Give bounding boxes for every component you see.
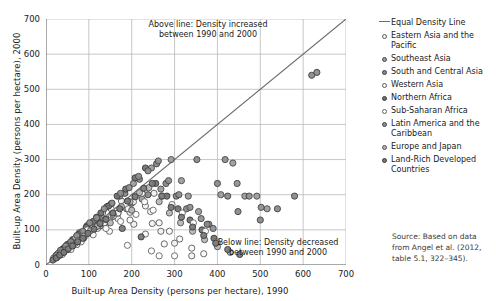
data-point [274,206,280,212]
legend-line-marker [378,18,391,22]
legend-item-label: Eastern Asia and the Pacific [391,31,496,52]
data-point [171,253,177,259]
legend-item-5[interactable]: Northern Africa [378,93,496,103]
data-point [198,216,204,222]
data-point [258,204,264,210]
x-tick-label: 100 [69,269,109,279]
x-tick-label: 500 [240,269,280,279]
legend-dot-marker [378,80,391,88]
data-point [187,204,193,210]
data-point [214,180,220,186]
x-tick-label: 400 [197,269,237,279]
x-axis-title: Built-up Area Density (persons per hecta… [0,286,360,296]
data-point [132,194,138,200]
data-point [210,225,216,231]
data-point [176,192,182,198]
legend-dot-icon [382,34,387,39]
data-point [129,207,135,213]
data-point [145,168,151,174]
data-point [222,156,228,162]
legend-dot-marker [378,106,391,114]
data-point [204,221,210,227]
legend-item-label: Latin America and the Caribbean [391,119,496,140]
plot-area [46,19,346,265]
data-point [127,217,133,223]
legend-item-1[interactable]: Eastern Asia and the Pacific [378,31,496,52]
legend-item-8[interactable]: Europe and Japan [378,142,496,152]
data-point [257,217,263,223]
legend-item-9[interactable]: Land-Rich Developed Countries [378,155,496,176]
source-note: Source: Based on data from Angel et al. … [392,232,496,265]
annotation-below-line2: between 1990 and 2000 [188,248,368,258]
data-point [264,206,270,212]
legend-item-label: Equal Density Line [391,18,466,28]
data-point [110,210,116,216]
legend-dot-icon [382,57,387,62]
legend-dot-marker [378,93,391,101]
legend-item-3[interactable]: South and Central Asia [378,67,496,77]
data-point [117,190,123,196]
legend-item-label: Europe and Japan [391,142,462,152]
data-point [156,253,162,259]
data-point [103,225,109,231]
data-point [166,228,172,234]
data-point [156,220,162,226]
legend-dot-icon [382,83,387,88]
data-point [119,225,125,231]
data-point [185,193,191,199]
data-point [135,173,141,179]
data-point [141,185,147,191]
data-point [218,192,224,198]
data-point [225,193,231,199]
data-point [101,206,107,212]
legend-item-6[interactable]: Sub-Saharan Africa [378,106,496,116]
data-point [158,186,164,192]
data-point [91,226,97,232]
data-point [141,199,147,205]
legend-dot-marker [378,142,391,150]
data-point [126,185,132,191]
x-tick-label: 700 [326,269,366,279]
data-point [168,204,174,210]
data-point [145,192,151,198]
data-point [138,234,144,240]
data-point [194,156,200,162]
data-point [195,208,201,214]
data-point [117,206,123,212]
data-point [234,180,240,186]
legend-dot-icon [382,145,387,150]
annotation-above-line2: between 1990 and 2000 [118,30,298,40]
data-point [254,193,260,199]
data-point [149,180,155,186]
data-point [178,178,184,184]
data-point [87,220,93,226]
data-point [168,156,174,162]
x-tick-label: 0 [26,269,66,279]
legend-item-0[interactable]: Equal Density Line [378,18,496,28]
legend-dot-icon [382,70,387,75]
legend-item-label: Southeast Asia [391,54,451,64]
legend-dot-icon [382,158,387,163]
legend-item-label: Land-Rich Developed Countries [391,155,496,176]
data-point [189,224,195,230]
legend-dot-marker [378,31,391,39]
legend-dot-icon [382,109,387,114]
data-point [291,193,297,199]
legend-item-label: Northern Africa [391,93,452,103]
legend-item-2[interactable]: Southeast Asia [378,54,496,64]
scatter-plot-canvas [46,19,346,265]
data-point [230,160,236,166]
data-point [109,200,115,206]
chart-figure: 0100200300400500600700 01002003004005006… [0,0,496,301]
legend-item-4[interactable]: Western Asia [378,80,496,90]
data-point [69,243,75,249]
data-point [161,241,167,247]
data-point [159,193,165,199]
data-point [85,230,91,236]
data-point [314,69,320,75]
data-point [178,214,184,220]
legend-dot-icon [382,96,387,101]
annotation-above-line1: Above line: Density increased [118,20,298,30]
legend-item-7[interactable]: Latin America and the Caribbean [378,119,496,140]
legend: Equal Density LineEastern Asia and the P… [378,18,496,178]
